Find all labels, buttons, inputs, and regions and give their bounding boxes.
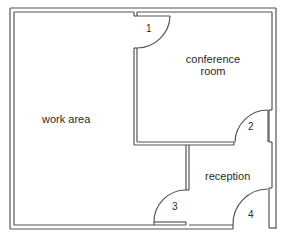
conference-label-line2: room — [173, 65, 253, 77]
room-label-work-area: work area — [42, 113, 90, 125]
door-1-swing — [137, 16, 170, 48]
room-label-conference: conference room — [173, 53, 253, 77]
conference-label-line1: conference — [173, 53, 253, 65]
door-label-2: 2 — [248, 121, 254, 133]
door-label-4: 4 — [248, 209, 254, 221]
reception-wall — [154, 145, 189, 225]
door-label-1: 1 — [146, 23, 152, 35]
door-label-3: 3 — [172, 201, 178, 213]
door-3-swing — [154, 190, 186, 222]
room-label-reception: reception — [205, 170, 250, 182]
